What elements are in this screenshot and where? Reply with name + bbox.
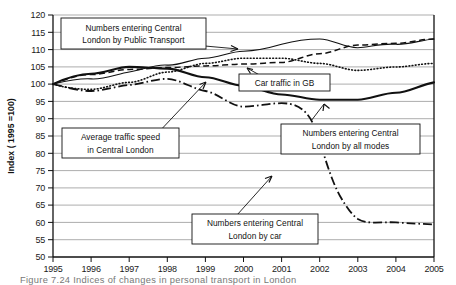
x-tick-label: 2004	[386, 264, 405, 274]
x-tick-label: 1996	[81, 264, 100, 274]
x-tick-label: 1997	[120, 264, 139, 274]
callout-by-car-line1: Numbers entering Central	[207, 218, 303, 228]
x-tick-label: 1995	[43, 264, 62, 274]
x-tick-label: 1999	[196, 264, 215, 274]
y-tick-label: 105	[31, 62, 46, 72]
callout-public-transport-line1: Numbers entering Central	[85, 23, 181, 33]
y-tick-label: 115	[31, 28, 45, 38]
line-chart: 120 115 110 105 100 95 90 85 80 75 70 65…	[0, 0, 456, 285]
y-tick-label: 85	[35, 131, 45, 141]
x-tick-label: 2000	[234, 264, 253, 274]
y-tick-label: 70	[35, 183, 45, 193]
y-tick-label: 65	[35, 200, 45, 210]
x-tick-label: 2002	[310, 264, 329, 274]
x-tick-label: 2001	[272, 264, 291, 274]
callout-by-car-line2: London by car	[228, 231, 281, 241]
x-tick-label: 2005	[424, 264, 443, 274]
x-tick-labels: 1995 1996 1997 1998 1999 2000 2001 2002 …	[43, 264, 443, 274]
callout-public-transport: Numbers entering Central London by Publi…	[61, 18, 206, 49]
y-tick-marks	[48, 15, 53, 257]
x-tick-label: 2003	[348, 264, 367, 274]
y-tick-label: 80	[35, 149, 45, 159]
y-tick-label: 90	[35, 114, 45, 124]
y-axis-title: Index ( 1995 =100)	[6, 98, 16, 174]
callout-by-car: Numbers entering Central London by car	[192, 214, 318, 244]
y-tick-label: 120	[31, 10, 46, 20]
callout-car-traffic-gb: Car traffic in GB	[239, 74, 330, 91]
y-tick-labels: 120 115 110 105 100 95 90 85 80 75 70 65…	[31, 10, 46, 262]
callout-average-traffic-speed-line2: in Central London	[87, 145, 154, 155]
figure-container: 120 115 110 105 100 95 90 85 80 75 70 65…	[0, 0, 456, 285]
y-tick-label: 60	[35, 218, 45, 228]
callout-car-traffic-gb-line1: Car traffic in GB	[255, 78, 315, 88]
callout-all-modes-line2: London by all modes	[312, 141, 390, 151]
figure-caption: Figure 7.24 Indices of changes in person…	[20, 275, 297, 285]
y-tick-label: 75	[35, 166, 45, 176]
y-tick-label: 55	[35, 235, 45, 245]
x-tick-label: 1998	[158, 264, 177, 274]
y-tick-label: 50	[35, 252, 45, 262]
callout-average-traffic-speed: Average traffic speed in Central London	[62, 128, 179, 158]
callout-average-traffic-speed-line1: Average traffic speed	[81, 132, 160, 142]
y-tick-label: 100	[31, 79, 46, 89]
callout-public-transport-line2: London by Public Transport	[82, 35, 185, 45]
x-tick-marks	[53, 257, 434, 262]
callout-all-modes-line1: Numbers entering Central	[302, 128, 398, 138]
y-tick-label: 110	[31, 45, 45, 55]
y-tick-label: 95	[35, 97, 45, 107]
callout-all-modes: Numbers entering Central London by all m…	[281, 124, 420, 154]
